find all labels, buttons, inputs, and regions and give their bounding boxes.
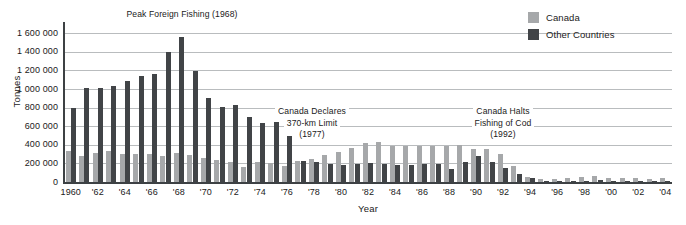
bar-group bbox=[213, 24, 227, 182]
bar-group bbox=[361, 24, 375, 182]
bar-canada bbox=[498, 154, 503, 182]
bar-canada bbox=[147, 154, 152, 182]
legend-label: Canada bbox=[546, 12, 580, 23]
plot-area bbox=[64, 24, 672, 182]
y-tick-label: 200 000 bbox=[2, 159, 58, 168]
bar-other-countries bbox=[179, 37, 184, 182]
bar-group bbox=[604, 24, 618, 182]
bar-canada bbox=[322, 155, 327, 182]
bar-canada bbox=[120, 154, 125, 182]
bar-group bbox=[159, 24, 173, 182]
bar-other-countries bbox=[436, 164, 441, 182]
bar-other-countries bbox=[382, 164, 387, 182]
bar-group bbox=[631, 24, 645, 182]
bar-canada bbox=[390, 146, 395, 182]
bar-group bbox=[172, 24, 186, 182]
bar-group bbox=[240, 24, 254, 182]
bar-canada bbox=[174, 153, 179, 182]
bar-group bbox=[577, 24, 591, 182]
legend-label: Other Countries bbox=[546, 29, 615, 40]
bar-canada bbox=[363, 143, 368, 182]
bar-other-countries bbox=[490, 162, 495, 182]
bar-group bbox=[442, 24, 456, 182]
bar-canada bbox=[376, 142, 381, 182]
bar-group bbox=[618, 24, 632, 182]
bar-group bbox=[294, 24, 308, 182]
bar-canada bbox=[201, 158, 206, 182]
bar-other-countries bbox=[247, 117, 252, 182]
y-tick-label: 400 000 bbox=[2, 140, 58, 149]
bar-other-countries bbox=[476, 156, 481, 182]
x-axis-title: Year bbox=[64, 203, 672, 214]
y-tick-label: 1 000 000 bbox=[2, 85, 58, 94]
bar-group bbox=[469, 24, 483, 182]
bar-group bbox=[564, 24, 578, 182]
y-tick-label: 1 400 000 bbox=[2, 47, 58, 56]
legend-swatch-icon bbox=[528, 12, 539, 23]
bar-group bbox=[91, 24, 105, 182]
bar-group bbox=[510, 24, 524, 182]
bar-other-countries bbox=[233, 105, 238, 182]
bar-canada bbox=[268, 163, 273, 182]
bar-canada bbox=[282, 166, 287, 182]
legend-item: Other Countries bbox=[528, 26, 615, 43]
bar-group bbox=[496, 24, 510, 182]
bar-group bbox=[132, 24, 146, 182]
bar-group bbox=[253, 24, 267, 182]
bar-other-countries bbox=[355, 164, 360, 182]
bar-group bbox=[456, 24, 470, 182]
bar-other-countries bbox=[328, 164, 333, 182]
bar-canada bbox=[471, 149, 476, 182]
chart-legend: CanadaOther Countries bbox=[528, 9, 615, 43]
annotation-line: (1977) bbox=[252, 129, 372, 141]
bar-group bbox=[402, 24, 416, 182]
bar-group bbox=[415, 24, 429, 182]
bar-canada bbox=[160, 156, 165, 182]
bar-other-countries bbox=[139, 76, 144, 182]
bar-other-countries bbox=[463, 162, 468, 182]
bar-group bbox=[321, 24, 335, 182]
y-tick-label: 0 bbox=[2, 178, 58, 187]
bar-other-countries bbox=[84, 88, 89, 182]
y-tick-label: 600 000 bbox=[2, 122, 58, 131]
bar-group bbox=[145, 24, 159, 182]
bar-canada bbox=[457, 145, 462, 182]
bar-other-countries bbox=[301, 161, 306, 182]
bar-canada bbox=[79, 156, 84, 182]
bar-group bbox=[550, 24, 564, 182]
bar-other-countries bbox=[341, 165, 346, 182]
bar-group bbox=[280, 24, 294, 182]
bar-canada bbox=[484, 149, 489, 182]
bar-other-countries bbox=[152, 74, 157, 182]
bar-group bbox=[537, 24, 551, 182]
annotation-label: Canada Declares370-km Limit(1977) bbox=[252, 106, 372, 141]
bar-group bbox=[429, 24, 443, 182]
bar-other-countries bbox=[449, 169, 454, 182]
y-tick-label: 800 000 bbox=[2, 103, 58, 112]
annotation-label: Canada HaltsFishing of Cod(1992) bbox=[443, 106, 563, 141]
x-tick-label: '04 bbox=[645, 187, 685, 197]
bar-group bbox=[483, 24, 497, 182]
bar-other-countries bbox=[422, 164, 427, 182]
bar-group bbox=[375, 24, 389, 182]
bar-canada bbox=[93, 153, 98, 182]
bar-group bbox=[199, 24, 213, 182]
bar-other-countries bbox=[287, 136, 292, 182]
bar-other-countries bbox=[314, 162, 319, 182]
bar-group bbox=[105, 24, 119, 182]
bar-canada bbox=[417, 146, 422, 182]
bar-canada bbox=[444, 146, 449, 182]
bar-canada bbox=[187, 155, 192, 182]
bar-other-countries bbox=[125, 81, 130, 182]
bar-other-countries bbox=[98, 88, 103, 182]
annotation-line: (1992) bbox=[443, 129, 563, 141]
bar-group bbox=[348, 24, 362, 182]
bar-other-countries bbox=[503, 168, 508, 182]
bar-canada bbox=[133, 154, 138, 182]
y-tick-label: 1 200 000 bbox=[2, 66, 58, 75]
bar-canada bbox=[241, 167, 246, 182]
bar-group bbox=[388, 24, 402, 182]
bar-other-countries bbox=[409, 165, 414, 182]
bar-group bbox=[267, 24, 281, 182]
bar-canada bbox=[228, 162, 233, 182]
